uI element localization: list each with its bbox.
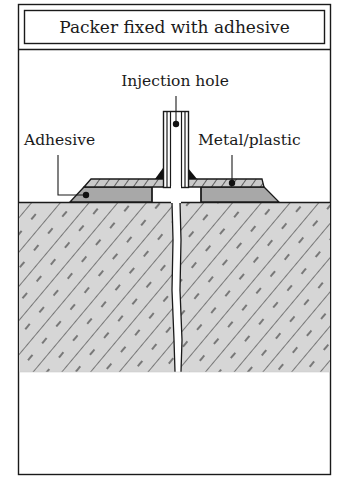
- label-metal-plastic: Metal/plastic: [198, 133, 301, 149]
- metal-flange-right: [188, 179, 264, 187]
- concrete-left: [19, 202, 175, 372]
- metal-flange-left: [84, 179, 165, 187]
- adhesive-dot: [83, 192, 89, 198]
- label-adhesive: Adhesive: [24, 133, 95, 149]
- fillet-left: [155, 168, 163, 179]
- injection-hole-dot: [173, 121, 179, 127]
- metal-dot: [229, 180, 235, 186]
- label-injection-hole: Injection hole: [120, 74, 230, 90]
- adhesive-leader: [58, 155, 84, 195]
- diagram-title: Packer fixed with adhesive: [24, 10, 325, 44]
- concrete-right: [180, 202, 330, 372]
- adhesive-right: [201, 187, 279, 202]
- diagram-canvas: Packer fixed with adhesive Injection hol…: [0, 0, 340, 480]
- fillet-right: [188, 168, 197, 179]
